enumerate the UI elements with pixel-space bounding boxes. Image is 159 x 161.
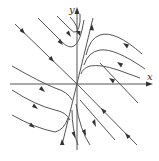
x-axis-arrow-icon — [146, 82, 153, 87]
trajectory — [76, 104, 90, 145]
trajectory — [84, 50, 145, 69]
trajectory-arrow-icon — [39, 86, 45, 92]
trajectory-arrow-icon — [66, 31, 71, 38]
y-axis-label: y — [68, 4, 75, 15]
phase-portrait-diagram: x y — [0, 0, 159, 161]
trajectory — [12, 115, 68, 132]
y-axis-arrow-icon — [75, 7, 80, 14]
trajectory-arrow-icon — [90, 24, 95, 31]
lower-left-trajectories — [12, 66, 72, 132]
trajectory-arrow-icon — [92, 119, 96, 127]
x-axis-label: x — [147, 71, 153, 82]
trajectory — [100, 63, 138, 103]
trajectory — [12, 90, 70, 120]
trajectory-arrow-icon — [117, 62, 123, 68]
trajectory-arrow-icon — [123, 43, 129, 49]
trajectory-arrow-icon — [60, 139, 65, 145]
trajectory-arrow-icon — [72, 132, 76, 139]
trajectory-arrow-icon — [109, 78, 115, 84]
trajectory — [81, 66, 140, 79]
lower-right-trajectories — [72, 63, 139, 145]
